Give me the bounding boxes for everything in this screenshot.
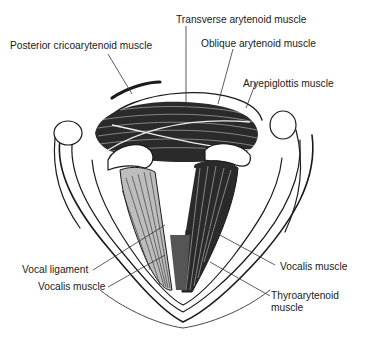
right-cartilage-knob bbox=[270, 111, 296, 139]
label-thyroarytenoid-line2: muscle bbox=[271, 302, 303, 313]
label-vocal-ligament: Vocal ligament bbox=[22, 264, 88, 275]
label-posterior-cricoarytenoid: Posterior cricoarytenoid muscle bbox=[10, 40, 152, 51]
larynx-diagram: Posterior cricoarytenoid muscle Transver… bbox=[0, 0, 367, 342]
label-aryepiglottis: Aryepiglottis muscle bbox=[243, 78, 334, 89]
label-thyroarytenoid-line1: Thyroarytenoid bbox=[271, 290, 339, 301]
label-vocalis-left: Vocalis muscle bbox=[38, 281, 105, 292]
label-vocalis-right: Vocalis muscle bbox=[280, 261, 347, 272]
label-transverse-arytenoid: Transverse arytenoid muscle bbox=[176, 14, 306, 25]
left-cartilage-knob bbox=[54, 121, 82, 145]
label-oblique-arytenoid: Oblique arytenoid muscle bbox=[201, 38, 316, 49]
